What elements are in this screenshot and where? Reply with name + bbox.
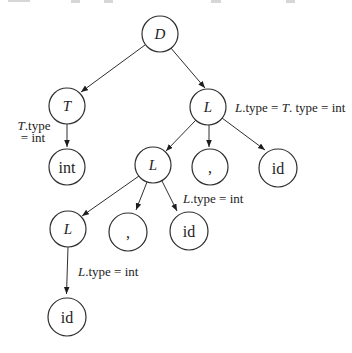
edge-L2-to-id xyxy=(162,181,177,211)
edge-D-to-L1 xyxy=(170,47,205,88)
annotation-L2-type: L.type = int xyxy=(182,191,244,206)
edge-L1-to-L2 xyxy=(166,120,196,151)
node-D-label: D xyxy=(154,26,166,42)
annotation-T-type-line2: = int xyxy=(21,130,46,145)
cropped-caption-fragment xyxy=(71,0,80,3)
annotation-L3-type: L.type = int xyxy=(77,264,139,279)
node-id3-label: id xyxy=(61,309,73,326)
node-id2-label: id xyxy=(183,223,195,240)
cropped-caption-fragment xyxy=(8,0,30,2)
cropped-caption-fragment xyxy=(286,0,295,3)
node-L3-label: L xyxy=(63,221,72,237)
node-comma2-label: , xyxy=(126,224,130,241)
node-id1-label: id xyxy=(272,160,284,177)
parse-tree-canvas: D T L int L , id L , id id T.type xyxy=(0,0,352,353)
node-comma1-label: , xyxy=(208,159,212,176)
edge-L1-to-id xyxy=(222,118,265,150)
annotation-L1-type: L.type = T. type = int xyxy=(234,100,346,115)
edge-L2-to-L3 xyxy=(82,176,139,216)
cropped-caption-fragments xyxy=(8,0,295,3)
node-L2-label: L xyxy=(148,157,157,173)
node-int-label: int xyxy=(59,159,76,176)
edge-L3-to-id xyxy=(67,247,69,294)
edge-L2-to-comma xyxy=(136,182,147,210)
tree-nodes: D T L int L , id L , id id xyxy=(48,16,297,336)
node-L1-label: L xyxy=(203,99,212,115)
cropped-caption-fragment xyxy=(104,0,113,3)
cropped-caption-fragment xyxy=(211,0,221,3)
edge-D-to-T xyxy=(81,45,145,92)
parse-tree-figure: D T L int L , id L , id id T.type xyxy=(0,0,352,353)
